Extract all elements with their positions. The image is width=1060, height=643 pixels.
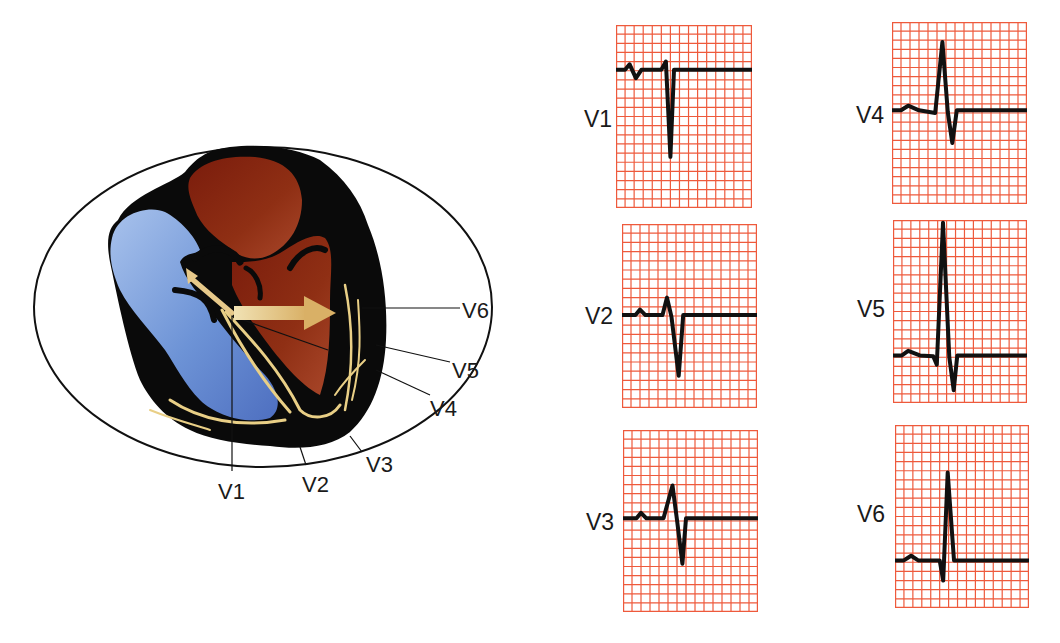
ecg-label-v6: V6: [857, 503, 885, 526]
ecg-label-v5: V5: [857, 298, 885, 321]
lead-label-v4: V4: [430, 396, 457, 421]
ecg-label-v4: V4: [856, 104, 884, 127]
ecg-grid: [616, 25, 752, 208]
lead-label-v6: V6: [462, 298, 489, 323]
ecg-grid: [622, 224, 757, 408]
ecg-label-v3: V3: [586, 511, 614, 534]
lead-label-v2: V2: [302, 472, 329, 497]
ecg-grid: [892, 22, 1027, 204]
lead-label-v3: V3: [366, 452, 393, 477]
ecg-label-v1: V1: [584, 108, 612, 131]
ecg-panel-v2: [622, 224, 757, 408]
ecg-panel-v3: [623, 430, 758, 612]
ecg-panel-v6: [895, 425, 1029, 608]
ecg-grid: [895, 425, 1029, 608]
ecg-label-v2: V2: [585, 305, 613, 328]
ecg-panel-v1: [616, 25, 752, 208]
ecg-panel-v5: [893, 220, 1027, 403]
ecg-grid: [893, 220, 1027, 403]
heart-diagram: V1 V2 V3 V4 V5 V6: [0, 0, 560, 643]
lead-label-v5: V5: [452, 358, 479, 383]
ecg-panel-v4: [892, 22, 1027, 204]
figure: V1 V2 V3 V4 V5 V6 V1 V2 V3 V4 V5 V6: [0, 0, 1060, 643]
lead-label-v1: V1: [218, 479, 245, 504]
ecg-grid: [623, 430, 758, 612]
